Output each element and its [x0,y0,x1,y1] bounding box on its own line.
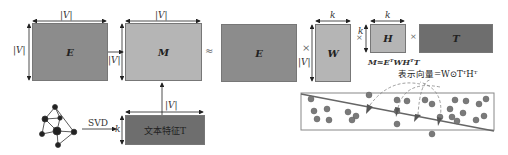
matrix-M: M [125,23,202,81]
matrix-T: T [419,24,493,53]
svd-label: SVD [88,118,108,128]
matrix-H-label: H [383,33,392,44]
matrix-E-transpose: E [221,24,297,82]
matrix-H: H [370,24,406,53]
graph-icon [40,105,77,148]
times-symbol-3: × [410,32,417,41]
W-height-label: |V| [298,57,311,67]
vector-space-panel [301,80,494,137]
E-width-label: |V| [60,10,73,20]
matrix-T2-label: T [452,33,459,44]
matrix-M-label: M [158,47,169,58]
E-height-label: |V| [13,45,26,55]
T-width-label: |V| [165,100,178,110]
M-width-label: |V| [155,10,168,20]
matrix-E-label: E [66,47,74,58]
diagram-canvas: E M 文本特征T |V| |V| |V| |V| |V| k SVD ≈ E … [0,0,508,155]
H-width-label: k [385,10,390,20]
times-symbol-1: × [302,42,310,53]
W-width-label: k [330,10,335,20]
T-height-label: k [115,124,120,134]
matrix-E: E [32,23,108,81]
approx-symbol: ≈ [205,45,213,56]
H-height-label: k [358,26,363,36]
matrix-W: W [315,24,351,82]
matrix-W-label: W [327,48,338,59]
matrix-T-label: 文本特征T [144,124,186,137]
representation-formula: 表示向量=W⊙TᵀHᵀ [398,67,477,79]
formula: M≈EᵀWHᵀT [368,57,420,67]
M-height-label: |V| [108,55,121,65]
matrix-E2-label: E [255,48,263,59]
matrix-T-text-features: 文本特征T [125,115,205,145]
